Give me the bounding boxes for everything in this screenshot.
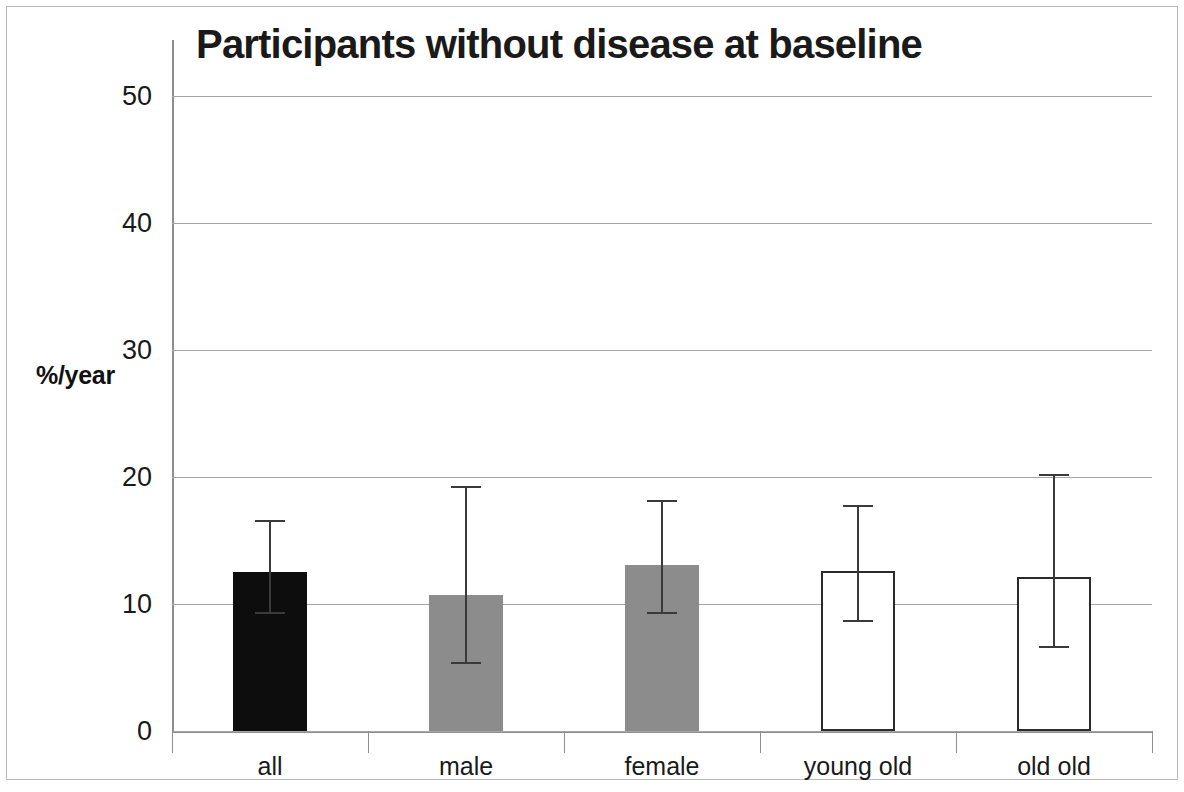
x-axis-label-male: male xyxy=(439,752,493,781)
bar-group xyxy=(172,96,368,731)
error-bar-lower-cap xyxy=(647,612,677,614)
gridline xyxy=(172,731,1152,732)
error-bar-male xyxy=(451,486,481,664)
error-bar-stem xyxy=(857,505,859,622)
error-bar-stem xyxy=(661,500,663,614)
y-axis-tick-label: 0 xyxy=(32,716,152,747)
x-axis-tick xyxy=(760,731,761,753)
bar-group xyxy=(368,96,564,731)
error-bar-lower-cap xyxy=(255,612,285,614)
error-bar-stem xyxy=(269,520,271,614)
x-axis-tick xyxy=(368,731,369,753)
bar-group xyxy=(564,96,760,731)
x-axis-label-old-old: old old xyxy=(1017,752,1091,781)
x-axis-tick xyxy=(1152,731,1153,753)
error-bar-upper-cap xyxy=(843,505,873,507)
error-bar-lower-cap xyxy=(451,662,481,664)
x-axis-label-all: all xyxy=(257,752,282,781)
x-axis-tick xyxy=(956,731,957,753)
x-axis-tick xyxy=(172,731,173,753)
error-bar-upper-cap xyxy=(1039,474,1069,476)
plot-area xyxy=(172,96,1152,731)
bar-group xyxy=(760,96,956,731)
error-bar-lower-cap xyxy=(843,620,873,622)
y-axis-label: %/year xyxy=(36,361,115,390)
error-bar-old-old xyxy=(1039,474,1069,648)
error-bar-lower-cap xyxy=(1039,646,1069,648)
y-axis-tick-label: 20 xyxy=(32,462,152,493)
x-axis-tick xyxy=(564,731,565,753)
error-bar-stem xyxy=(465,486,467,664)
y-axis-tick-label: 10 xyxy=(32,589,152,620)
error-bar-all xyxy=(255,520,285,614)
chart-title: Participants without disease at baseline xyxy=(196,22,922,67)
x-axis-label-female: female xyxy=(624,752,699,781)
chart-figure: Participants without disease at baseline… xyxy=(0,0,1184,792)
error-bar-upper-cap xyxy=(451,486,481,488)
x-axis-label-young-old: young old xyxy=(804,752,912,781)
y-axis-tick-label: 50 xyxy=(32,81,152,112)
y-axis-tick-labels: 01020304050 xyxy=(22,0,152,792)
error-bar-upper-cap xyxy=(255,520,285,522)
bar-group xyxy=(956,96,1152,731)
error-bar-stem xyxy=(1053,474,1055,648)
y-axis-tick-label: 40 xyxy=(32,208,152,239)
error-bar-upper-cap xyxy=(647,500,677,502)
error-bar-female xyxy=(647,500,677,614)
error-bar-young-old xyxy=(843,505,873,622)
